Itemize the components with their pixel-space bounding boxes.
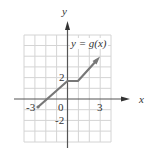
- tick-label-neg3: -3: [26, 102, 35, 113]
- y-axis-arrow-icon: [65, 21, 70, 30]
- graph-figure: [0, 0, 155, 150]
- x-axis-label: x: [139, 94, 144, 105]
- tick-label-2: 2: [59, 72, 65, 83]
- tick-label-3: 3: [97, 102, 103, 113]
- tick-label-0: 0: [58, 102, 64, 113]
- x-axis-arrow-icon: [121, 97, 130, 102]
- equation-label: y = g(x): [70, 38, 108, 49]
- y-axis-label: y: [62, 6, 67, 17]
- curve-start-point: [36, 105, 39, 108]
- tick-label-neg2: -2: [55, 115, 64, 126]
